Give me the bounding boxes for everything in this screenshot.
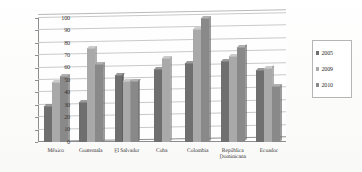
y-axis-tick-mark-0 xyxy=(35,142,38,143)
bar-2010-república-dominicana xyxy=(237,47,245,142)
x-axis-label-line: Ecuador xyxy=(251,147,286,154)
bar-face xyxy=(221,61,229,142)
y-axis-tick-mark-80 xyxy=(35,43,38,44)
y-axis-tick-mark-50 xyxy=(35,80,38,81)
x-axis-label-line: Colombia xyxy=(180,147,215,154)
bar-2005-cuba xyxy=(154,69,162,142)
x-axis-label-cuba: Cuba xyxy=(144,147,179,154)
bar-face xyxy=(154,69,162,142)
x-axis-label-el-salvador: El Salvador xyxy=(109,147,144,154)
bar-2005-colombia xyxy=(185,63,193,142)
y-axis-tick-label-70: 70 xyxy=(44,52,70,58)
bar-group xyxy=(109,18,144,142)
legend-item-2009[interactable]: 2009 xyxy=(316,61,349,77)
legend-swatch-icon xyxy=(316,67,319,70)
y-axis-tick-label-60: 60 xyxy=(44,64,70,70)
y-axis-tick-label-50: 50 xyxy=(44,77,70,83)
x-axis-label-ecuador: Ecuador xyxy=(251,147,286,154)
bar-2009-cuba xyxy=(162,58,170,142)
bar-face xyxy=(95,64,103,142)
legend-label: 2009 xyxy=(321,66,333,72)
bar-side xyxy=(280,84,282,141)
bar-2009-el-salvador xyxy=(123,81,131,142)
y-axis-tick-mark-100 xyxy=(35,18,38,19)
y-axis-tick-label-0: 0 xyxy=(44,139,70,145)
x-axis-label-line: Guatemala xyxy=(73,147,108,154)
bar-face xyxy=(87,48,95,142)
bar-group xyxy=(73,18,108,142)
y-axis-tick-mark-20 xyxy=(35,117,38,118)
y-axis-tick-mark-30 xyxy=(35,105,38,106)
bar-2010-colombia xyxy=(201,18,209,142)
legend-label: 2005 xyxy=(321,50,333,56)
legend-item-2010[interactable]: 2010 xyxy=(316,77,349,93)
bar-2009-república-dominicana xyxy=(229,56,237,142)
y-axis-tick-mark-60 xyxy=(35,68,38,69)
y-axis-tick-mark-10 xyxy=(35,130,38,131)
bar-2009-ecuador xyxy=(264,68,272,142)
x-axis-label-guatemala: Guatemala xyxy=(73,147,108,154)
bar-2005-ecuador xyxy=(256,70,264,142)
y-axis-tick-label-40: 40 xyxy=(44,89,70,95)
bar-face xyxy=(162,58,170,142)
bar-face xyxy=(229,56,237,142)
x-axis-label-line: Dominicana xyxy=(215,153,250,160)
bar-face xyxy=(44,106,52,142)
x-axis-label-méxico: México xyxy=(38,147,73,154)
y-axis-tick-label-10: 10 xyxy=(44,126,70,132)
legend-swatch-icon xyxy=(316,83,319,86)
bar-2010-el-salvador xyxy=(131,81,139,142)
y-axis-tick-mark-90 xyxy=(35,30,38,31)
chart-legend: 200520092010 xyxy=(312,40,352,98)
plot-wrapper xyxy=(38,18,286,142)
x-axis-label-line: México xyxy=(38,147,73,154)
bar-group xyxy=(144,18,179,142)
chart-figure: 0102030405060708090100 MéxicoGuatemalaEl… xyxy=(0,0,362,172)
legend-swatch-icon xyxy=(316,51,319,54)
bar-2009-colombia xyxy=(193,29,201,142)
bar-group xyxy=(215,18,250,142)
bar-group xyxy=(251,18,286,142)
x-axis-label-colombia: Colombia xyxy=(180,147,215,154)
bar-group xyxy=(180,18,215,142)
bar-side xyxy=(245,45,247,142)
legend-label: 2010 xyxy=(321,82,333,88)
y-axis-tick-label-80: 80 xyxy=(44,40,70,46)
y-axis-tick-mark-70 xyxy=(35,55,38,56)
y-axis-tick-label-20: 20 xyxy=(44,114,70,120)
x-axis-label-line: El Salvador xyxy=(109,147,144,154)
bar-face xyxy=(79,102,87,142)
y-axis-tick-label-100: 100 xyxy=(44,15,70,21)
y-axis-tick-label-30: 30 xyxy=(44,102,70,108)
bar-2005-el-salvador xyxy=(115,75,123,142)
bar-2005-guatemala xyxy=(79,102,87,142)
bar-side xyxy=(103,62,105,142)
x-axis-label-line: Cuba xyxy=(144,147,179,154)
y-axis-tick-mark-40 xyxy=(35,92,38,93)
y-axis-tick-label-90: 90 xyxy=(44,27,70,33)
bar-2005-república-dominicana xyxy=(221,61,229,142)
bar-2010-guatemala xyxy=(95,64,103,142)
legend-item-2005[interactable]: 2005 xyxy=(316,45,349,61)
bar-side xyxy=(138,79,140,141)
x-axis-label-república-dominicana: RepúblicaDominicana xyxy=(215,147,251,160)
bar-2010-ecuador xyxy=(272,86,280,142)
x-axis-labels: MéxicoGuatemalaEl SalvadorCubaColombiaRe… xyxy=(38,145,286,169)
bar-face xyxy=(237,47,245,142)
bar-2005-méxico xyxy=(44,106,52,142)
bar-series-container xyxy=(38,18,286,142)
bar-side xyxy=(170,56,172,142)
bar-side xyxy=(209,16,211,142)
bar-2009-guatemala xyxy=(87,48,95,142)
